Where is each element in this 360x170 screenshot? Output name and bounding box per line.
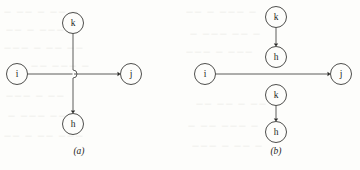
node-k-label: k bbox=[71, 18, 76, 28]
panel-a: kijh(a) bbox=[7, 13, 142, 158]
node-i-label: i bbox=[16, 69, 19, 79]
node-j-label: j bbox=[339, 69, 343, 79]
edge-arrowhead bbox=[274, 44, 278, 47]
node-k-top-label: k bbox=[274, 12, 279, 22]
panel-b: khijkh(b) bbox=[195, 7, 352, 158]
node-j-label: j bbox=[129, 69, 133, 79]
graph-figure: kijh(a) khijkh(b) bbox=[0, 0, 360, 170]
node-k-bottom-label: k bbox=[274, 90, 279, 100]
node-h-top-label: h bbox=[274, 52, 279, 62]
edge-arrowhead bbox=[328, 72, 331, 76]
panel-a-caption: (a) bbox=[73, 146, 84, 157]
node-h-label: h bbox=[71, 119, 76, 129]
panel-b-caption: (b) bbox=[270, 146, 281, 157]
node-h-bottom-label: h bbox=[274, 127, 279, 137]
node-i-label: i bbox=[204, 69, 207, 79]
figure-root: — —— — —— ——— — —————— — —— ———— —— ——— … bbox=[0, 0, 360, 170]
